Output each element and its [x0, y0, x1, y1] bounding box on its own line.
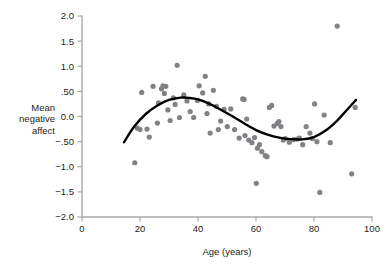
data-point — [304, 124, 309, 129]
x-tick-label: 20 — [135, 223, 146, 234]
data-point — [276, 119, 281, 124]
data-point — [204, 111, 209, 116]
data-point — [162, 91, 167, 96]
data-point — [216, 127, 221, 132]
fit-curve — [124, 98, 356, 143]
y-axis-title-line: negative — [19, 113, 55, 124]
data-point — [257, 142, 262, 147]
x-tick-label: 0 — [79, 223, 84, 234]
data-point — [232, 127, 237, 132]
data-point — [242, 133, 247, 138]
data-point — [168, 118, 173, 123]
data-point — [211, 88, 216, 93]
scatter-points — [132, 23, 358, 195]
data-point — [328, 140, 333, 145]
data-point — [322, 112, 327, 117]
data-point — [278, 124, 283, 129]
data-point — [269, 103, 274, 108]
y-axis-title-line: affect — [32, 125, 55, 136]
y-tick-label: 0.0 — [61, 111, 74, 122]
data-point — [314, 139, 319, 144]
data-point — [200, 90, 205, 95]
data-point — [249, 140, 254, 145]
y-axis-tick-labels: 2.01.51.0.500.0−.50−1.0−1.5−2.0 — [55, 10, 74, 222]
data-point — [132, 160, 137, 165]
data-point — [203, 74, 208, 79]
data-point — [163, 84, 168, 89]
data-point — [335, 23, 340, 28]
y-tick-label: −2.0 — [55, 211, 74, 222]
y-tick-label: .50 — [61, 86, 74, 97]
data-point — [242, 97, 247, 102]
x-axis-tick-labels: 020406080100 — [79, 223, 380, 234]
data-point — [244, 116, 249, 121]
x-tick-label: 100 — [364, 223, 380, 234]
data-point — [254, 181, 259, 186]
data-point — [137, 127, 142, 132]
data-point — [150, 84, 155, 89]
x-tick-label: 80 — [309, 223, 320, 234]
data-point — [144, 126, 149, 131]
y-tick-label: −.50 — [55, 136, 74, 147]
data-point — [188, 109, 193, 114]
data-point — [307, 130, 312, 135]
y-tick-label: 1.0 — [61, 61, 74, 72]
y-tick-label: 2.0 — [61, 10, 74, 21]
data-point — [197, 83, 202, 88]
data-point — [317, 190, 322, 195]
y-axis-title-line: Mean — [31, 102, 55, 113]
x-axis-title: Age (years) — [202, 246, 251, 257]
data-point — [155, 120, 160, 125]
scatter-chart: 020406080100 2.01.51.0.500.0−.50−1.0−1.5… — [0, 0, 390, 267]
data-point — [175, 63, 180, 68]
data-point — [300, 142, 305, 147]
data-point — [218, 118, 223, 123]
data-point — [252, 135, 257, 140]
data-point — [165, 107, 170, 112]
data-point — [237, 136, 242, 141]
data-point — [349, 171, 354, 176]
x-tick-label: 60 — [251, 223, 262, 234]
data-point — [147, 135, 152, 140]
data-point — [191, 115, 196, 120]
y-tick-label: 1.5 — [61, 36, 74, 47]
data-point — [177, 115, 182, 120]
data-point — [264, 154, 269, 159]
y-tick-label: −1.0 — [55, 161, 74, 172]
data-point — [259, 149, 264, 154]
data-point — [139, 90, 144, 95]
y-tick-label: −1.5 — [55, 186, 74, 197]
data-point — [228, 106, 233, 111]
plot-axes — [78, 16, 373, 222]
data-point — [312, 101, 317, 106]
y-axis-title: Meannegativeaffect — [19, 102, 55, 136]
axis-lines — [82, 16, 372, 217]
data-point — [225, 124, 230, 129]
data-point — [184, 98, 189, 103]
x-tick-label: 40 — [193, 223, 204, 234]
data-point — [353, 105, 358, 110]
data-point — [172, 102, 177, 107]
data-point — [208, 130, 213, 135]
